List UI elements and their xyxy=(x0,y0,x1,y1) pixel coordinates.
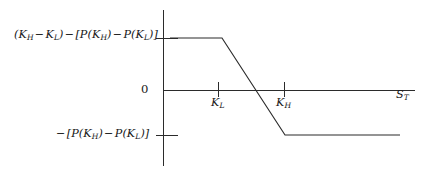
y-axis-upper-label: (KH − KL) − [P(KH) − P(KL)] xyxy=(14,29,158,42)
y-axis-zero-label: 0 xyxy=(141,84,148,96)
plot-canvas xyxy=(0,0,430,174)
y-axis-lower-label: − [P(KH) − P(KL)] xyxy=(56,128,149,141)
x-tick-label-kl: KL xyxy=(211,97,225,110)
x-tick-label-kh: KH xyxy=(276,97,291,110)
x-axis-label: ST xyxy=(396,89,409,102)
payoff-diagram-figure: (KH − KL) − [P(KH) − P(KL)] − [P(KH) − P… xyxy=(0,0,430,174)
